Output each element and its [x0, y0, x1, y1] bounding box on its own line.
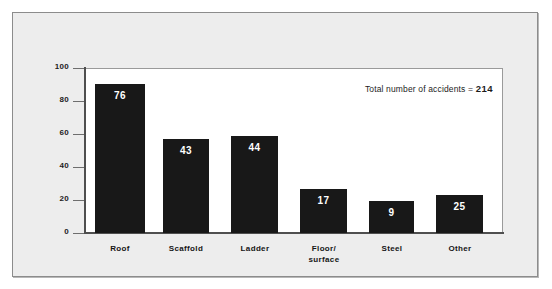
y-tick-label-20: 20 — [41, 195, 69, 203]
x-label-roof: Roof — [90, 243, 150, 254]
y-tick-label-0: 0 — [41, 228, 69, 236]
bar-value-floor-surface: 17 — [300, 196, 347, 206]
x-label-ladder-line1: Ladder — [225, 243, 285, 254]
bar-ladder: 44 — [231, 136, 278, 233]
x-label-other-line1: Other — [430, 243, 490, 254]
x-label-floor-surface-line2: surface — [294, 254, 354, 265]
y-tick-mark-80 — [73, 101, 84, 102]
y-tick-label-40: 40 — [41, 162, 69, 170]
bar-scaffold: 43 — [163, 139, 209, 233]
y-tick-group-100: 100 — [35, 63, 69, 73]
y-axis-line — [84, 67, 86, 234]
x-label-steel-line1: Steel — [362, 243, 422, 254]
y-tick-mark-100 — [73, 68, 84, 69]
total-accidents-annotation: Total number of accidents = 214 — [313, 83, 493, 94]
y-tick-label-80: 80 — [41, 96, 69, 104]
chart-panel: 100 80 60 40 20 0 — [12, 12, 538, 277]
y-tick-group-40: 40 — [35, 162, 69, 172]
annotation-prefix: Total number of accidents = — [365, 84, 476, 94]
x-label-steel: Steel — [362, 243, 422, 254]
y-tick-mark-0 — [73, 233, 84, 234]
y-tick-mark-20 — [73, 200, 84, 201]
bar-value-scaffold: 43 — [163, 146, 209, 156]
y-tick-mark-60 — [73, 134, 84, 135]
y-tick-group-80: 80 — [35, 96, 69, 106]
x-label-scaffold-line1: Scaffold — [156, 243, 216, 254]
x-label-roof-line1: Roof — [90, 243, 150, 254]
y-tick-group-60: 60 — [35, 129, 69, 139]
chart-figure: 100 80 60 40 20 0 — [0, 0, 552, 289]
x-label-ladder: Ladder — [225, 243, 285, 254]
y-tick-group-0: 0 — [35, 228, 69, 238]
bar-value-roof: 76 — [95, 91, 145, 101]
bar-value-other: 25 — [436, 202, 483, 212]
bar-steel: 9 — [369, 201, 414, 233]
y-tick-group-20: 20 — [35, 195, 69, 205]
y-tick-label-60: 60 — [41, 129, 69, 137]
x-label-floor-surface: Floor/ surface — [294, 243, 354, 265]
x-label-scaffold: Scaffold — [156, 243, 216, 254]
y-tick-mark-40 — [73, 167, 84, 168]
bar-other: 25 — [436, 195, 483, 233]
y-tick-label-100: 100 — [41, 63, 69, 71]
bar-floor-surface: 17 — [300, 189, 347, 233]
bar-value-ladder: 44 — [231, 143, 278, 153]
annotation-total-value: 214 — [476, 83, 493, 94]
x-label-floor-surface-line1: Floor/ — [294, 243, 354, 254]
x-label-other: Other — [430, 243, 490, 254]
bar-roof: 76 — [95, 84, 145, 233]
bar-value-steel: 9 — [369, 208, 414, 218]
